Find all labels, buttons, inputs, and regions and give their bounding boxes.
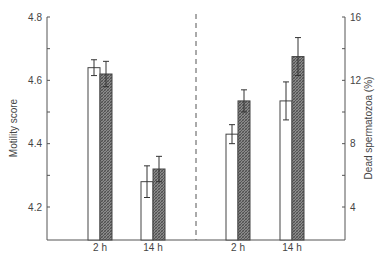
left-axis-title: Motility score: [8, 98, 19, 157]
hatched-bar: [238, 101, 250, 240]
open-bar: [88, 68, 100, 240]
right-tick-label: 16: [350, 12, 362, 23]
right-axis-title: Dead spermatozoa (%): [363, 77, 374, 180]
bars: [88, 38, 304, 240]
x-tick-label: 14 h: [282, 242, 301, 253]
x-tick-label: 2 h: [231, 242, 245, 253]
open-bar: [226, 134, 238, 240]
hatched-bar: [292, 57, 304, 240]
left-tick-label: 4.2: [28, 202, 42, 213]
right-tick-label: 8: [350, 138, 356, 149]
labels: 4.84.64.44.2161284Motility scoreDead spe…: [8, 12, 374, 254]
right-tick-label: 12: [350, 75, 362, 86]
left-tick-label: 4.8: [28, 12, 42, 23]
right-tick-label: 4: [350, 202, 356, 213]
left-tick-label: 4.6: [28, 75, 42, 86]
x-tick-label: 2 h: [93, 242, 107, 253]
bar-chart: 4.84.64.44.2161284Motility scoreDead spe…: [0, 0, 384, 260]
hatched-bar: [100, 74, 112, 240]
left-tick-label: 4.4: [28, 138, 42, 149]
open-bar: [280, 101, 292, 240]
x-tick-label: 14 h: [143, 242, 162, 253]
